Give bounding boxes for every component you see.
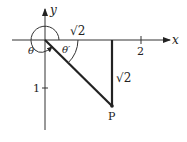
terminal-side — [45, 40, 112, 106]
diagram-canvas: y x 2 1 θ θ′ √2 √2 P — [0, 0, 187, 142]
theta-ref-label: θ′ — [62, 44, 71, 55]
horizontal-length-label: √2 — [70, 24, 85, 38]
point-p — [110, 104, 114, 108]
theta-arc-end — [35, 47, 52, 52]
point-p-label: P — [108, 110, 116, 123]
theta-label: θ — [28, 45, 34, 56]
y-axis-label: y — [49, 3, 57, 17]
x-axis-label: x — [172, 33, 179, 47]
y-tick-label: 1 — [33, 82, 40, 95]
x-tick-label: 2 — [137, 45, 144, 58]
vertical-length-label: √2 — [116, 71, 131, 85]
